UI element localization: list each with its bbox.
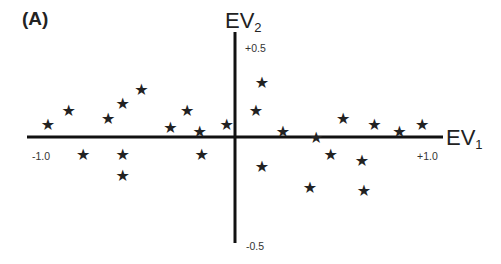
star-marker-icon: ★ xyxy=(309,128,323,147)
star-marker-icon: ★ xyxy=(220,115,234,134)
star-marker-icon: ★ xyxy=(255,157,269,176)
x-axis-title-text: EV xyxy=(446,125,475,150)
star-marker-icon: ★ xyxy=(303,178,317,197)
star-marker-icon: ★ xyxy=(357,181,371,200)
star-marker-icon: ★ xyxy=(101,109,115,128)
star-marker-icon: ★ xyxy=(367,115,381,134)
x-min-tick-label: -1.0 xyxy=(32,150,50,162)
star-marker-icon: ★ xyxy=(249,101,263,120)
star-marker-icon: ★ xyxy=(355,151,369,170)
star-marker-icon: ★ xyxy=(116,145,130,164)
x-axis-title: EV1 xyxy=(446,125,483,152)
star-marker-icon: ★ xyxy=(116,166,130,185)
star-marker-icon: ★ xyxy=(276,122,290,141)
y-axis-title: EV2 xyxy=(225,8,262,35)
star-marker-icon: ★ xyxy=(192,122,206,141)
star-marker-icon: ★ xyxy=(255,73,269,92)
scatter-plot: ★★★★★★★★★★★★★★★★★★★★★★★★★★ xyxy=(0,0,501,264)
y-axis-title-text: EV xyxy=(225,8,254,33)
x-axis-title-subscript: 1 xyxy=(475,137,482,152)
star-marker-icon: ★ xyxy=(163,118,177,137)
star-marker-icon: ★ xyxy=(76,145,90,164)
y-axis-title-subscript: 2 xyxy=(254,20,261,35)
star-marker-icon: ★ xyxy=(392,122,406,141)
star-marker-icon: ★ xyxy=(41,115,55,134)
star-marker-icon: ★ xyxy=(324,145,338,164)
star-marker-icon: ★ xyxy=(336,109,350,128)
y-min-tick-label: -0.5 xyxy=(246,240,264,252)
star-marker-icon: ★ xyxy=(134,80,148,99)
star-marker-icon: ★ xyxy=(61,101,75,120)
star-marker-icon: ★ xyxy=(116,94,130,113)
x-max-tick-label: +1.0 xyxy=(417,150,438,162)
panel-label: (A) xyxy=(22,8,48,30)
star-marker-icon: ★ xyxy=(195,145,209,164)
star-marker-icon: ★ xyxy=(415,115,429,134)
y-max-tick-label: +0.5 xyxy=(245,42,266,54)
star-marker-icon: ★ xyxy=(180,101,194,120)
